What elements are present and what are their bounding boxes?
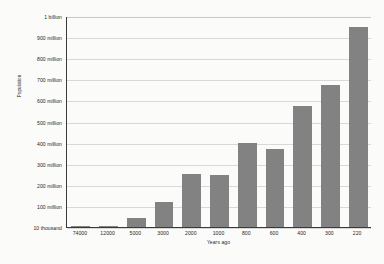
x-tick-label: 1000 <box>213 230 225 236</box>
bar <box>210 175 229 227</box>
x-tick-label: 3000 <box>157 230 169 236</box>
bar <box>155 202 174 227</box>
x-tick-label: 5000 <box>130 230 142 236</box>
bar <box>266 149 285 227</box>
y-axis-tick-labels: 1 billion900 million800 million700 milli… <box>0 0 64 264</box>
bars-layer <box>67 17 371 227</box>
y-tick-label: 10 thousand <box>33 225 62 231</box>
plot-area <box>66 17 371 228</box>
y-tick-label: 400 million <box>37 141 62 147</box>
x-tick-label: 300 <box>325 230 334 236</box>
y-tick-label: 300 million <box>37 162 62 168</box>
population-bar-chart: Population 1 billion900 million800 milli… <box>0 0 384 264</box>
x-tick-label: 600 <box>270 230 279 236</box>
y-tick-label: 700 million <box>37 77 62 83</box>
y-tick-label: 600 million <box>37 98 62 104</box>
bar <box>349 27 368 227</box>
x-axis-title: Years ago <box>66 239 371 245</box>
y-tick-label: 1 billion <box>44 14 62 20</box>
gridline <box>67 228 371 229</box>
bar <box>238 143 257 227</box>
y-tick-label: 500 million <box>37 120 62 126</box>
x-tick-label: 74000 <box>73 230 87 236</box>
x-tick-label: 2000 <box>185 230 197 236</box>
bar <box>127 218 146 227</box>
y-tick-label: 800 million <box>37 56 62 62</box>
x-tick-label: 12000 <box>100 230 114 236</box>
y-tick-label: 100 million <box>37 204 62 210</box>
y-tick-label: 900 million <box>37 35 62 41</box>
y-tick-label: 200 million <box>37 183 62 189</box>
bar <box>71 226 90 227</box>
bar <box>293 106 312 227</box>
bar <box>182 174 201 227</box>
x-tick-label: 800 <box>242 230 251 236</box>
bar <box>321 85 340 227</box>
x-tick-label: 400 <box>297 230 306 236</box>
bar <box>99 226 118 227</box>
x-tick-label: 220 <box>353 230 362 236</box>
